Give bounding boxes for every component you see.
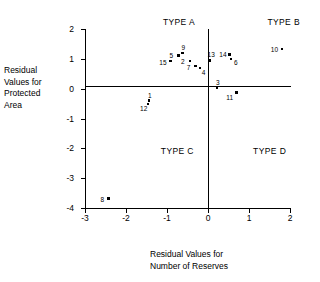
quadrant-label-type-b: TYPE B (267, 17, 300, 27)
data-point-label: 9 (182, 44, 186, 51)
x-axis-title-line-1: Residual Values for (150, 249, 300, 261)
y-axis-title-line-4: Area (4, 100, 70, 112)
data-point-marker (281, 48, 284, 51)
data-point-marker (230, 58, 233, 61)
data-point-marker (216, 87, 219, 90)
data-point-label: 8 (100, 196, 104, 203)
data-point-label: 7 (187, 64, 191, 71)
x-tick-label: -3 (75, 214, 95, 223)
quadrant-label-type-c: TYPE C (161, 146, 194, 156)
y-tick-mark (81, 178, 86, 179)
y-tick-label: -3 (12, 174, 74, 183)
y-tick-mark (81, 29, 86, 30)
x-tick-label: 2 (280, 214, 300, 223)
y-tick-label: 1 (12, 55, 74, 64)
data-point-marker (181, 52, 184, 55)
y-tick-mark (81, 148, 86, 149)
data-point-label: 14 (219, 51, 226, 58)
y-tick-label: -4 (12, 204, 74, 213)
data-point-marker (208, 59, 211, 62)
quadrant-label-type-a: TYPE A (163, 17, 195, 27)
data-point-label: 13 (208, 51, 215, 58)
data-point-label: 15 (159, 59, 166, 66)
quadrant-label-type-d: TYPE D (253, 146, 286, 156)
data-point-label: 5 (170, 52, 174, 59)
data-point-marker (107, 197, 110, 200)
data-point-label: 10 (271, 46, 278, 53)
data-point-label: 11 (226, 94, 233, 101)
x-axis-spine (85, 208, 291, 209)
y-tick-label: -2 (12, 144, 74, 153)
data-point-label: 2 (181, 58, 185, 65)
data-point-marker (199, 67, 202, 70)
data-point-marker (235, 91, 238, 94)
y-tick-mark (81, 89, 86, 90)
y-tick-label: -1 (12, 115, 74, 124)
x-axis-title-line-2: Number of Reserves (150, 261, 300, 273)
x-tick-label: -1 (157, 214, 177, 223)
y-tick-label: 2 (12, 25, 74, 34)
scatter-plot-figure: Residual Values for Protected Area Resid… (0, 0, 320, 282)
y-tick-label: 0 (12, 85, 74, 94)
data-point-label: 4 (202, 69, 206, 76)
data-point-marker (169, 60, 172, 63)
data-point-marker (148, 99, 151, 102)
y-tick-mark (81, 119, 86, 120)
x-axis-title: Residual Values for Number of Reserves (150, 249, 300, 272)
y-tick-mark (81, 59, 86, 60)
data-point-marker (228, 53, 231, 56)
data-point-marker (177, 54, 180, 57)
data-point-label: 3 (216, 79, 220, 86)
data-point-marker (189, 60, 192, 63)
horizontal-zero-line (85, 86, 291, 87)
data-point-label: 1 (148, 92, 152, 99)
data-point-label: 12 (140, 105, 147, 112)
x-tick-label: 0 (198, 214, 218, 223)
x-tick-label: -2 (116, 214, 136, 223)
x-tick-label: 1 (239, 214, 259, 223)
data-point-label: 6 (234, 59, 238, 66)
y-axis-title-line-1: Residual (4, 65, 70, 77)
data-point-marker (194, 65, 197, 68)
